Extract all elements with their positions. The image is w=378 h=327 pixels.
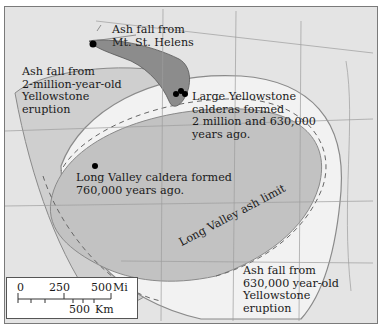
label-yellowstone-calderas: Large Yellowstone calderas formed 2 mill… (192, 91, 316, 141)
scale-km-500: 500 (69, 303, 90, 316)
label-young-yellowstone: Ash fall from 630,000 year-old Yellowsto… (243, 265, 339, 315)
scale-km-unit: Km (95, 303, 114, 316)
st-helens-marker (90, 41, 97, 48)
label-long-valley-caldera: Long Valley caldera formed 760,000 years… (76, 172, 232, 197)
label-old-yellowstone: Ash fall from 2-million-year-old Yellows… (22, 66, 122, 116)
label-st-helens: Ash fall from Mt. St. Helens (112, 24, 194, 49)
long-valley-marker (92, 163, 98, 169)
scale-bar: 0 250 500 Mi 500 Km (6, 277, 138, 319)
